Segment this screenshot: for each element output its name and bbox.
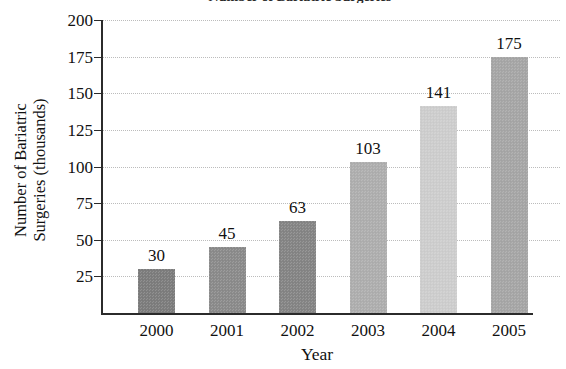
x-axis-tick-label: 2005 [474, 322, 544, 339]
bar-texture [279, 221, 316, 313]
bar-value-label: 141 [404, 84, 474, 101]
y-axis-tick-label: 25 [49, 268, 93, 285]
bar-texture [138, 269, 175, 313]
bar-texture [209, 247, 246, 313]
bar-value-label: 63 [263, 199, 333, 216]
bar-value-label: 45 [192, 225, 262, 242]
bar [279, 221, 316, 313]
x-axis-tick-label: 2002 [263, 322, 333, 339]
bar [491, 57, 528, 313]
bar-texture [350, 162, 387, 313]
bar-value-label: 175 [474, 35, 544, 52]
y-axis-tick-label: 75 [49, 195, 93, 212]
chart-title-cutoff: Number of Bariatric Surgeries [150, 0, 450, 3]
y-axis-tick-label: 150 [49, 85, 93, 102]
y-axis-tick-label: 200 [49, 12, 93, 29]
y-axis-tick-labels: 200175150125100755025 [47, 20, 93, 313]
x-axis-tick-label: 2000 [122, 322, 192, 339]
bar [209, 247, 246, 313]
y-axis-title-line1: Number of Bariatric [11, 98, 30, 241]
y-axis-tick-label: 100 [49, 159, 93, 176]
y-axis-line [101, 20, 103, 313]
bar-value-label: 103 [333, 140, 403, 157]
bar-chart-figure: Number of Bariatric Surgeries Number of … [0, 0, 566, 369]
y-axis-tick-label: 175 [49, 49, 93, 66]
bar-texture [491, 57, 528, 313]
x-axis-tick-label: 2004 [404, 322, 474, 339]
x-axis-tick-label: 2001 [192, 322, 262, 339]
y-axis-tick-label: 50 [49, 232, 93, 249]
gridline [101, 20, 560, 21]
x-axis-tick-label: 2003 [333, 322, 403, 339]
plot-area: 304563103141175 [101, 20, 560, 313]
bar-value-label: 30 [122, 247, 192, 264]
bar [420, 106, 457, 313]
bar-texture [420, 106, 457, 313]
bar [350, 162, 387, 313]
y-axis-tick-label: 125 [49, 122, 93, 139]
bar [138, 269, 175, 313]
x-axis-title: Year [101, 344, 533, 365]
x-axis-line [101, 313, 533, 315]
